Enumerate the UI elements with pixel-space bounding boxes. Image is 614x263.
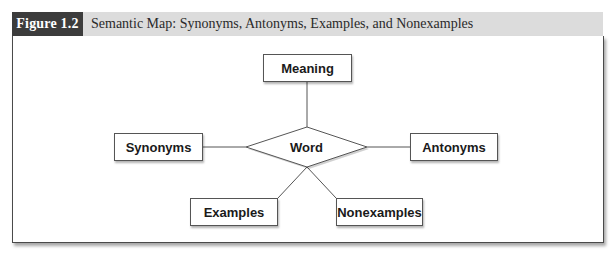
edge-word-nonexamples (307, 167, 336, 198)
node-synonyms: Synonyms (114, 133, 203, 161)
word-label: Word (246, 137, 367, 157)
edge-word-examples (278, 167, 307, 198)
node-nonexamples: Nonexamples (336, 198, 423, 226)
node-meaning: Meaning (263, 54, 352, 82)
node-examples: Examples (190, 198, 278, 226)
node-antonyms: Antonyms (410, 133, 498, 161)
diagram-connectors (0, 0, 614, 263)
